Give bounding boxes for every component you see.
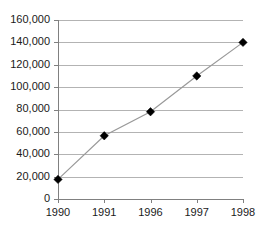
- y-tick-label: 100,000: [10, 80, 50, 92]
- y-tick-label: 140,000: [10, 35, 50, 47]
- y-tick-label: 40,000: [16, 147, 50, 159]
- x-tick-label: 1997: [185, 206, 209, 218]
- y-tick-label: 60,000: [16, 125, 50, 137]
- y-tick-label: 80,000: [16, 102, 50, 114]
- x-tick-labels: 19901991199619971998: [46, 206, 255, 218]
- y-tick-label: 160,000: [10, 13, 50, 25]
- data-point-marker: [239, 38, 247, 46]
- chart-canvas: 020,00040,00060,00080,000100,000120,0001…: [0, 0, 261, 233]
- x-tick-label: 1991: [92, 206, 116, 218]
- y-tick-label: 120,000: [10, 58, 50, 70]
- y-tick-labels: 020,00040,00060,00080,000100,000120,0001…: [10, 13, 50, 204]
- x-tick-label: 1990: [46, 206, 70, 218]
- line-chart: 020,00040,00060,00080,000100,000120,0001…: [0, 0, 261, 233]
- x-tick-label: 1996: [138, 206, 162, 218]
- y-tick-label: 20,000: [16, 170, 50, 182]
- y-tick-label: 0: [44, 192, 50, 204]
- x-tick-label: 1998: [231, 206, 255, 218]
- y-tick-marks: [54, 21, 58, 200]
